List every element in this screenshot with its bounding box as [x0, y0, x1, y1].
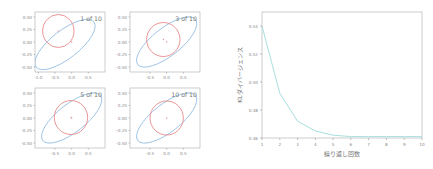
y-tick-label: -0.25 [21, 52, 32, 57]
center-marker [71, 117, 72, 118]
x-tick-label: 0.5 [180, 151, 187, 156]
x-tick-label: -0.5 [146, 75, 155, 80]
y-tick-label: 0.25 [23, 27, 33, 32]
y-tick-label: -0.50 [21, 141, 32, 146]
y-tick-label: 0.25 [23, 103, 33, 108]
y-tick-label: 0.54 [249, 24, 259, 29]
x-tick-label: 0.0 [163, 75, 170, 80]
x-tick-label: 0.5 [85, 75, 92, 80]
ellipse-panels-grid: 1 of 100.500.250.00-0.25-0.50-1.0-0.50.0… [21, 8, 204, 156]
plot-frame [262, 12, 422, 138]
panel-label: 5 of 10 [80, 91, 102, 98]
x-tick-label: 0.5 [85, 151, 92, 156]
center-marker [166, 117, 167, 118]
x-tick-label: 6 [350, 142, 353, 147]
kl-line [262, 26, 422, 137]
y-tick-label: 0.00 [118, 40, 128, 45]
ellipse-panel: 10 of 100.500.250.00-0.25-0.50-0.50.00.5 [116, 84, 204, 156]
x-tick-label: 0.5 [180, 75, 187, 80]
panel-label: 1 of 10 [80, 15, 102, 22]
x-tick-label: 10 [419, 142, 425, 147]
x-tick-label: 0.0 [163, 151, 170, 156]
x-tick-label: -0.5 [146, 151, 155, 156]
x-tick-label: 2 [278, 142, 281, 147]
ellipse-panel: 1 of 100.500.250.00-0.25-0.50-1.0-0.50.0… [21, 11, 105, 80]
x-tick-label: -0.5 [51, 151, 60, 156]
center-marker [163, 39, 164, 40]
x-tick-label: 5 [332, 142, 335, 147]
center-marker [71, 41, 72, 42]
ellipse-panel: 5 of 100.500.250.00-0.25-0.50-0.50.00.5 [21, 84, 109, 156]
y-tick-label: -0.50 [116, 65, 127, 70]
x-tick-label: 8 [385, 142, 388, 147]
y-tick-label: 0.50 [118, 91, 128, 96]
x-tick-label: -1.0 [34, 75, 43, 80]
figure: 1 of 100.500.250.00-0.25-0.50-1.0-0.50.0… [0, 0, 433, 169]
x-tick-label: 9 [403, 142, 406, 147]
x-tick-label: 0.0 [68, 151, 75, 156]
y-tick-label: 0.52 [249, 52, 259, 57]
kl-divergence-plot: 0.540.520.500.480.4612345678910繰り返し回数KLダ… [236, 12, 425, 158]
y-tick-label: 0.50 [249, 80, 259, 85]
y-tick-label: -0.25 [116, 52, 127, 57]
y-tick-label: 0.00 [23, 40, 33, 45]
y-tick-label: 0.50 [118, 15, 128, 20]
center-marker [58, 30, 59, 31]
y-tick-label: -0.25 [21, 128, 32, 133]
y-tick-label: -0.50 [21, 65, 32, 70]
x-tick-label: 0.0 [68, 75, 75, 80]
panel-label: 10 of 10 [171, 91, 197, 98]
y-tick-label: -0.25 [116, 128, 127, 133]
x-tick-label: -0.5 [51, 75, 60, 80]
y-tick-label: 0.00 [23, 116, 33, 121]
y-tick-label: 0.50 [23, 91, 33, 96]
ellipse-panel: 3 of 100.500.250.00-0.25-0.50-0.50.00.5 [116, 8, 204, 80]
x-tick-label: 7 [367, 142, 370, 147]
x-tick-label: 4 [314, 142, 317, 147]
x-tick-label: 3 [296, 142, 299, 147]
center-marker [166, 41, 167, 42]
y-tick-label: 0.25 [118, 27, 128, 32]
y-tick-label: 0.48 [249, 108, 259, 113]
y-tick-label: 0.46 [249, 136, 259, 141]
y-tick-label: 0.00 [118, 116, 128, 121]
y-tick-label: 0.25 [118, 103, 128, 108]
x-axis-label: 繰り返し回数 [324, 150, 360, 158]
y-tick-label: -0.50 [116, 141, 127, 146]
panel-label: 3 of 10 [175, 15, 197, 22]
y-axis-label: KLダイバージェンス [236, 47, 244, 102]
y-tick-label: 0.50 [23, 15, 33, 20]
x-tick-label: 1 [261, 142, 264, 147]
